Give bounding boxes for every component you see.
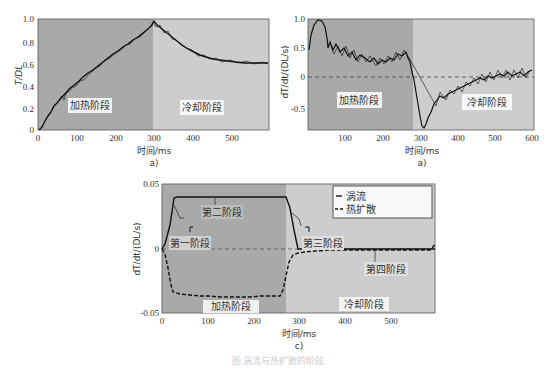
y-axis-label: T/DL	[14, 65, 24, 85]
y-tick: 0.4	[23, 82, 35, 92]
x-tick: 500	[225, 133, 239, 143]
x-tick: 100	[338, 133, 352, 143]
subfigure-caption: a)	[149, 158, 158, 168]
figure-caption: 图 涡流与热扩散的阶段	[232, 355, 325, 366]
cooling-label: 冷却阶段	[467, 96, 507, 108]
y-tick: -0.05	[140, 308, 159, 318]
legend-diffusion-label: 热扩散	[346, 203, 376, 215]
x-axis-label: 时间/ms	[282, 328, 317, 339]
x-tick: 200	[376, 133, 390, 143]
x-tick: 300	[147, 133, 161, 143]
x-tick: 0	[160, 316, 165, 326]
y-tick: 0	[30, 125, 35, 135]
y-tick: 0.5	[294, 43, 306, 53]
legend-eddy-label: 涡流	[346, 190, 366, 202]
y-tick: 0	[301, 72, 306, 82]
chart-a-right: -0.5 0 0.5 1.0 100 200 300 400 500 600 d…	[280, 14, 539, 168]
legend: 涡流 热扩散	[333, 186, 432, 218]
y-tick: 0.8	[23, 38, 35, 48]
cooling-label: 冷却阶段	[344, 298, 384, 310]
heating-region	[38, 19, 153, 130]
y-tick: 1.0	[294, 14, 306, 24]
stage3-label: 第三阶段	[303, 237, 343, 249]
chart-a-left: 0 0.2 0.4 0.6 0.8 1.0 0 100 200 300 400 …	[14, 14, 269, 168]
x-axis-label: 时间/ms	[405, 145, 440, 156]
subfigure-caption: a)	[417, 158, 426, 168]
y-tick: 0.2	[23, 104, 34, 114]
heating-label: 加热阶段	[70, 99, 110, 111]
x-tick: 500	[488, 133, 502, 143]
chart-c: 第二阶段 第一阶段 第三阶段 第四阶段 加热阶段 冷却阶段 涡流 热扩散 0.0…	[132, 179, 435, 351]
x-tick: 300	[292, 316, 306, 326]
heating-label: 加热阶段	[339, 94, 379, 106]
figure: 0 0.2 0.4 0.6 0.8 1.0 0 100 200 300 400 …	[0, 0, 556, 368]
y-tick: 0.6	[23, 60, 35, 70]
stage4-label: 第四阶段	[366, 263, 406, 275]
x-tick: 200	[247, 316, 261, 326]
x-axis-label: 时间/ms	[137, 145, 172, 156]
x-tick: 200	[109, 133, 123, 143]
x-tick: 600	[525, 133, 539, 143]
heating-region	[308, 19, 413, 130]
y-tick: 1.0	[23, 14, 35, 24]
subfigure-caption: c)	[295, 341, 303, 351]
x-tick: 400	[186, 133, 200, 143]
stage2-label: 第二阶段	[202, 206, 242, 218]
y-tick: 0	[155, 244, 160, 254]
y-tick: 0.05	[143, 179, 159, 189]
x-tick: 400	[338, 316, 352, 326]
y-axis-label: dT/dt/(DL/s)	[280, 45, 290, 98]
heating-label: 加热阶段	[211, 300, 251, 312]
x-tick: 0	[36, 133, 41, 143]
x-tick: 100	[70, 133, 84, 143]
y-axis-label: dT/dt/(DL/s)	[132, 222, 142, 275]
x-tick: 500	[384, 316, 398, 326]
x-tick: 400	[451, 133, 465, 143]
stage1-label: 第一阶段	[170, 237, 210, 249]
cooling-label: 冷却阶段	[182, 101, 222, 113]
x-tick: 300	[414, 133, 428, 143]
x-tick: 100	[201, 316, 215, 326]
y-tick: -0.5	[291, 104, 306, 114]
